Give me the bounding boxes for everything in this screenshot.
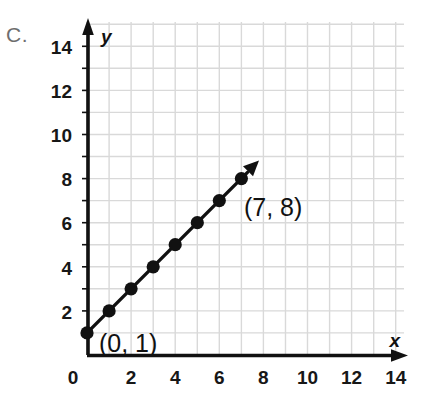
part-label: C. (6, 23, 28, 47)
y-tick-label: 12 (51, 81, 72, 102)
y-tick-label: 10 (51, 125, 72, 146)
data-point (213, 194, 226, 207)
data-point (147, 260, 160, 273)
data-point (235, 172, 248, 185)
y-axis-arrowhead (82, 18, 94, 35)
data-point (103, 304, 116, 317)
x-tick-label: 10 (297, 367, 318, 388)
data-point (169, 238, 182, 251)
x-axis-arrowhead (391, 349, 408, 361)
y-tick-labels: 2 4 6 8 10 12 14 (51, 37, 73, 323)
data-point (125, 282, 138, 295)
grid (87, 22, 404, 355)
x-tick-label: 6 (214, 367, 225, 388)
origin-tick-label: 0 (68, 367, 79, 388)
x-tick-label: 8 (258, 367, 269, 388)
x-tick-label: 4 (170, 367, 181, 388)
x-axis-label: x (388, 330, 401, 351)
start-point-label: (0, 1) (99, 329, 157, 357)
data-point (80, 326, 93, 339)
x-tick-label: 2 (126, 367, 137, 388)
y-tick-label: 6 (61, 213, 72, 234)
coordinate-plane: y x 0 2 4 6 8 10 12 14 2 4 6 8 10 12 14 (0, 0, 421, 396)
graph-figure: C. (0, 0, 421, 396)
x-tick-label: 12 (341, 367, 362, 388)
x-tick-label: 14 (385, 367, 407, 388)
y-tick-label: 4 (61, 258, 72, 279)
y-tick-label: 14 (51, 37, 73, 58)
data-point (191, 216, 204, 229)
y-tick-label: 8 (61, 169, 72, 190)
end-point-label: (7, 8) (244, 193, 302, 221)
y-axis-label: y (100, 26, 113, 47)
x-tick-labels: 2 4 6 8 10 12 14 (126, 367, 407, 388)
y-tick-label: 2 (61, 302, 72, 323)
